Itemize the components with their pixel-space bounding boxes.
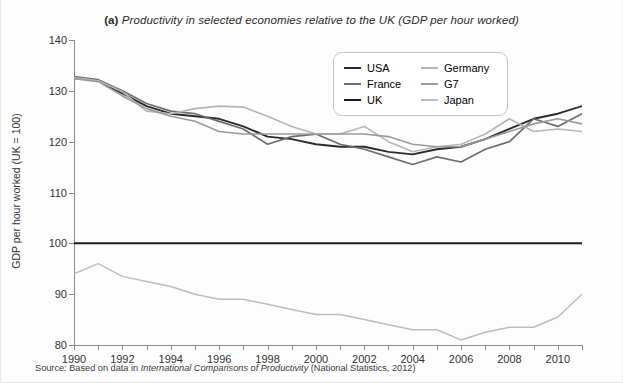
y-axis-tick <box>69 243 74 244</box>
x-axis-tick <box>316 345 317 350</box>
x-axis-tick <box>292 345 293 350</box>
legend-label-g7: G7 <box>444 76 459 92</box>
x-axis-line <box>74 345 582 346</box>
x-axis-tick <box>122 345 123 350</box>
y-axis-tick-label: 120 <box>49 136 67 148</box>
x-axis-tick <box>74 345 75 350</box>
x-axis-tick <box>195 345 196 350</box>
legend-label-france: France <box>367 76 401 92</box>
x-axis-tick <box>364 345 365 350</box>
y-axis-label: GDP per hour worked (UK = 100) <box>10 66 22 316</box>
legend-label-usa: USA <box>367 60 390 76</box>
legend-item-usa: USA <box>344 60 421 76</box>
source-note: Source: Based on data in International C… <box>35 363 415 373</box>
legend-item-france: France <box>344 76 421 92</box>
legend-row: France G7 <box>344 76 498 92</box>
legend-item-germany: Germany <box>421 60 498 76</box>
figure-title-text: Productivity in selected economies relat… <box>122 14 519 26</box>
legend-swatch-germany <box>421 67 438 69</box>
x-axis-tick <box>461 345 462 350</box>
legend-row: UK Japan <box>344 92 498 108</box>
legend-item-g7: G7 <box>421 76 498 92</box>
x-axis-tick <box>509 345 510 350</box>
legend-swatch-japan <box>421 99 438 101</box>
x-axis-tick <box>98 345 99 350</box>
y-axis-tick <box>69 193 74 194</box>
x-axis-tick <box>388 345 389 350</box>
x-axis-tick <box>534 345 535 350</box>
x-axis-tick <box>485 345 486 350</box>
x-axis-tick-label: 2008 <box>497 353 521 365</box>
x-axis-tick-label: 2010 <box>546 353 570 365</box>
y-axis-tick-label: 90 <box>55 288 67 300</box>
legend-label-uk: UK <box>367 92 382 108</box>
legend-label-germany: Germany <box>444 60 489 76</box>
y-axis-tick <box>69 91 74 92</box>
x-axis-tick <box>219 345 220 350</box>
legend-item-uk: UK <box>344 92 421 108</box>
x-axis-tick <box>268 345 269 350</box>
figure-title: (a) Productivity in selected economies r… <box>1 14 622 26</box>
x-axis-tick <box>171 345 172 350</box>
x-axis-tick <box>437 345 438 350</box>
y-axis-tick-label: 110 <box>49 187 67 199</box>
y-axis-tick-label: 80 <box>55 339 67 351</box>
x-axis-tick <box>413 345 414 350</box>
x-axis-tick <box>243 345 244 350</box>
x-axis-tick <box>340 345 341 350</box>
source-prefix: Source: Based on data in <box>35 363 141 373</box>
legend-row: USA Germany <box>344 60 498 76</box>
legend-item-japan: Japan <box>421 92 498 108</box>
legend-swatch-uk <box>344 99 361 101</box>
legend-swatch-usa <box>344 67 361 69</box>
x-axis-tick-label: 2006 <box>449 353 473 365</box>
source-title: International Comparisons of Productivit… <box>141 363 309 373</box>
x-axis-tick <box>582 345 583 350</box>
y-axis-tick <box>69 294 74 295</box>
legend-swatch-france <box>344 83 361 85</box>
x-axis-tick <box>147 345 148 350</box>
legend-swatch-g7 <box>421 83 438 85</box>
source-suffix: (National Statistics, 2012) <box>308 363 415 373</box>
y-axis-tick-label: 130 <box>49 85 67 97</box>
figure-label: (a) <box>104 14 118 26</box>
y-axis-tick-label: 100 <box>49 237 67 249</box>
y-axis-tick-label: 140 <box>49 34 67 46</box>
series-line-japan <box>74 264 582 340</box>
figure-panel: (a) Productivity in selected economies r… <box>0 0 623 383</box>
legend-label-japan: Japan <box>444 92 474 108</box>
x-axis-tick <box>558 345 559 350</box>
y-axis-tick <box>69 142 74 143</box>
chart-legend: USA Germany France G7 UK <box>333 52 508 116</box>
y-axis-tick <box>69 40 74 41</box>
